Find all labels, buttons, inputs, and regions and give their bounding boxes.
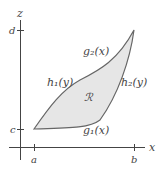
label-region: ℛ [84, 91, 94, 104]
region-diagram: z x d c a b g₂(x) h₁(y) h₂(y) g₁(x) ℛ [0, 0, 165, 169]
tick-label-a: a [31, 154, 37, 165]
tick-label-b: b [131, 154, 137, 165]
label-g1: g₁(x) [83, 124, 109, 137]
label-h2: h₂(y) [121, 76, 147, 89]
label-h1: h₁(y) [47, 76, 73, 89]
tick-label-d: d [9, 25, 15, 36]
z-axis-label: z [16, 7, 23, 20]
x-axis-label: x [149, 141, 156, 154]
tick-label-c: c [10, 124, 16, 135]
label-g2: g₂(x) [83, 45, 109, 58]
